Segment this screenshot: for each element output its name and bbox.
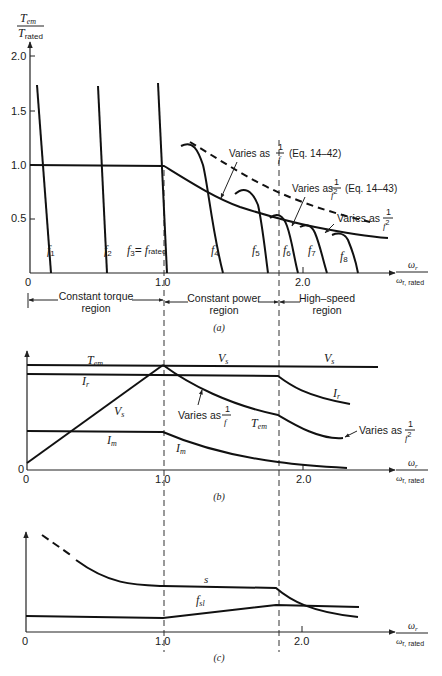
curve-f5 <box>235 190 268 273</box>
region-high-speed: High–speed region <box>280 292 355 316</box>
x-tick-label: 1.0 <box>155 473 170 485</box>
y-tick-label: 0.5 <box>11 212 26 224</box>
svg-text:ωr: ωr <box>408 620 418 633</box>
svg-text:Tem: Tem <box>20 11 36 26</box>
svg-text:f2: f2 <box>383 219 390 231</box>
x-axis-label: ωr ωr, rated <box>396 259 428 286</box>
svg-text:ωr, rated: ωr, rated <box>396 636 424 647</box>
svg-text:f: f <box>278 154 282 164</box>
label-ir-left: Ir <box>81 374 90 389</box>
x-tick-label: 0 <box>22 635 28 647</box>
x-axis-label: ωr ωr, rated <box>396 620 428 647</box>
svg-text:(Eq. 14–42): (Eq. 14–42) <box>289 148 341 159</box>
x-axis-label: ωr ωr, rated <box>396 457 428 484</box>
svg-text:Constant torque: Constant torque <box>59 290 134 302</box>
region-constant-torque: Constant torque region <box>28 290 163 314</box>
x-tick-label: 0 <box>25 276 31 288</box>
y-tick-label: 1.0 <box>11 159 26 171</box>
panel-c: 0 1.0 2.0 ωr ωr, rated s fsl (c) <box>22 532 428 664</box>
panel-c-caption: (c) <box>213 652 225 664</box>
im-curve <box>27 431 347 468</box>
annotation-b-varies-1-over-f2: Varies as 1 f2 <box>345 419 415 443</box>
label-vs-ramp: Vs <box>114 404 124 419</box>
x-tick-label: 2.0 <box>295 276 310 288</box>
svg-text:region: region <box>312 304 341 316</box>
label-ir-right: Ir <box>332 386 341 401</box>
svg-text:f2: f2 <box>331 188 338 200</box>
tem-vs-top-line <box>27 365 378 367</box>
vs-ramp <box>27 365 163 463</box>
x-tick-label: 1.0 <box>155 276 170 288</box>
label-im-right: Im <box>175 441 186 456</box>
svg-text:Constant power: Constant power <box>187 292 261 304</box>
svg-text:region: region <box>209 304 238 316</box>
panel-a-caption: (a) <box>213 322 225 334</box>
svg-text:Varies as: Varies as <box>337 212 380 224</box>
label-im-left: Im <box>106 433 117 448</box>
svg-text:Varies as: Varies as <box>292 183 333 194</box>
curve-f3 <box>158 83 167 273</box>
svg-text:1: 1 <box>278 142 283 152</box>
svg-text:1: 1 <box>386 207 391 217</box>
label-f2: f2 <box>104 243 112 258</box>
svg-text:1: 1 <box>408 419 413 429</box>
region-constant-power: Constant power region <box>165 292 278 316</box>
x-tick-label: 1.0 <box>155 635 170 647</box>
y-tick-label: 1.5 <box>11 105 26 117</box>
svg-text:1: 1 <box>225 404 230 414</box>
svg-text:ωr: ωr <box>408 457 418 470</box>
svg-text:1: 1 <box>334 177 339 187</box>
annotation-varies-1-over-f2: Varies as 1 f2 <box>325 207 393 233</box>
ir-curve <box>27 374 350 404</box>
label-vs-mid: Vs <box>218 351 228 366</box>
label-f5: f5 <box>252 243 260 258</box>
annotation-b-varies-1-over-f: Varies as 1 f <box>178 390 231 427</box>
label-s: s <box>204 573 208 585</box>
label-fsl: fsl <box>196 593 205 608</box>
svg-text:f: f <box>224 417 228 427</box>
label-f4: f4 <box>211 243 219 258</box>
label-f8: f8 <box>340 249 348 264</box>
label-f7: f7 <box>308 243 316 258</box>
svg-text:ωr, rated: ωr, rated <box>396 473 424 484</box>
x-tick-label: 0 <box>23 473 29 485</box>
svg-text:Varies as: Varies as <box>178 409 221 421</box>
svg-text:(Eq. 14–43): (Eq. 14–43) <box>345 183 397 194</box>
x-tick-label: 2.0 <box>294 635 309 647</box>
svg-text:High–speed: High–speed <box>299 292 355 304</box>
y-axis-label: Tem Trated <box>17 11 44 41</box>
y-tick-label: 2.0 <box>11 50 26 62</box>
label-tem-right: Tem <box>251 416 267 431</box>
panel-a: Tem Trated 2.0 1.5 1.0 0.5 0 1.0 2.0 ωr … <box>11 11 428 652</box>
label-vs-right: Vs <box>324 351 334 366</box>
svg-text:f2: f2 <box>405 431 412 443</box>
curve-f8 <box>332 234 358 273</box>
svg-text:ωr, rated: ωr, rated <box>396 275 424 286</box>
slip-curve <box>76 560 358 617</box>
figure-canvas: Tem Trated 2.0 1.5 1.0 0.5 0 1.0 2.0 ωr … <box>0 0 442 676</box>
label-f6: f6 <box>283 243 291 258</box>
panel-b-caption: (b) <box>213 491 225 503</box>
svg-text:Varies as: Varies as <box>359 424 402 436</box>
label-f3-rated: f3=frated <box>127 243 166 258</box>
svg-text:Trated: Trated <box>18 26 43 41</box>
svg-text:ωr: ωr <box>408 259 418 272</box>
label-f1: f1 <box>47 243 55 258</box>
x-tick-label: 2.0 <box>296 473 311 485</box>
svg-text:region: region <box>81 302 110 314</box>
panel-b: 0 0 1.0 2.0 ωr ωr, rated Tem Vs Vs Ir Ir… <box>18 351 428 503</box>
slip-curve-dashed <box>42 535 72 556</box>
label-tem: Tem <box>87 353 103 368</box>
svg-text:Varies as: Varies as <box>229 148 270 159</box>
